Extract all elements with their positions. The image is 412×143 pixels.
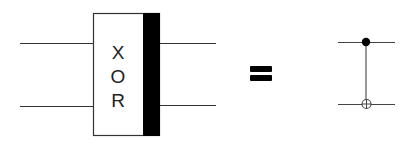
xor-letter-r: R	[98, 91, 138, 110]
cnot-control-dot-icon	[362, 38, 370, 46]
circuit-diagram	[0, 0, 412, 143]
xor-gate-black-bar	[143, 13, 160, 136]
cnot-gate	[338, 38, 395, 109]
cnot-target-oplus-icon	[362, 100, 371, 109]
xor-letter-x: X	[98, 43, 138, 62]
xor-letter-o: O	[98, 67, 138, 86]
equals-sign	[250, 66, 272, 81]
